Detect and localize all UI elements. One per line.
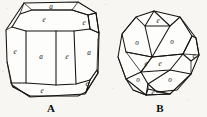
face-label-b-lower-left: o bbox=[136, 76, 140, 84]
face-label-a-center-left: a bbox=[39, 53, 43, 61]
figure-b-caption: B bbox=[156, 102, 164, 114]
face-label-a-top: a bbox=[49, 3, 53, 11]
figure-a-caption: A bbox=[47, 102, 55, 114]
face-label-b-upper-left: o bbox=[135, 39, 139, 47]
figure-a-group: a e e e a e a e e A bbox=[6, 2, 99, 114]
face-label-b-lower-right: o bbox=[168, 76, 172, 84]
face-label-a-right: a bbox=[87, 49, 91, 57]
figure-b-group: e o o e e e o o e B bbox=[118, 11, 199, 114]
face-label-b-upper-right: o bbox=[170, 38, 174, 46]
crystal-drawing-svg: a e e e a e a e e A bbox=[0, 0, 207, 117]
crystal-figure-plate: a e e e a e a e e A bbox=[0, 0, 207, 117]
